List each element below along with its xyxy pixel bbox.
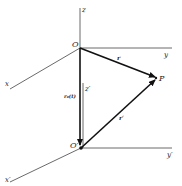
- axis-x: [10, 48, 80, 89]
- vector-r: [80, 48, 155, 77]
- label-r0: r₀(t): [64, 93, 76, 99]
- label-z-prime: z′: [84, 85, 91, 93]
- label-x: x: [5, 80, 9, 88]
- label-p: P: [158, 74, 165, 83]
- point-p-dot: [155, 77, 157, 79]
- label-y-prime: y′: [166, 151, 173, 159]
- origin-o-prime-dot: [79, 146, 83, 150]
- label-z: z: [81, 6, 86, 14]
- label-r: r: [117, 54, 121, 61]
- vectors: [80, 48, 155, 148]
- vector-r-prime: [81, 80, 155, 148]
- lower-frame: [10, 83, 172, 182]
- label-x-prime: x′: [5, 176, 11, 184]
- label-o: O: [72, 40, 79, 49]
- label-r-prime: r′: [119, 114, 124, 121]
- axis-x-prime: [10, 148, 81, 182]
- diagram-canvas: z O y x r P z′ r₀(t) r′ O′ y′ x′: [0, 0, 182, 186]
- label-y: y: [163, 51, 169, 59]
- label-o-prime: O′: [70, 141, 79, 150]
- upper-frame: [10, 8, 172, 89]
